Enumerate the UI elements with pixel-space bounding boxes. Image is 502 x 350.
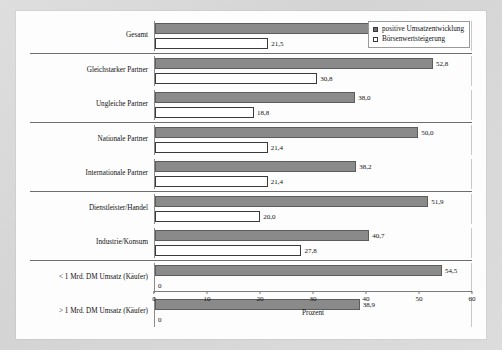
bar-b-rsenwertsteigerung bbox=[155, 142, 268, 153]
chart-row: 52,830,8Gleichstarker Partner bbox=[30, 54, 472, 88]
category-label: Nationale Partner bbox=[30, 136, 154, 144]
plot-area: 44,021,5Gesamt52,830,8Gleichstarker Part… bbox=[30, 19, 472, 291]
tick-label: 0 bbox=[152, 295, 156, 303]
x-tick-60: 60 bbox=[469, 291, 476, 303]
chart-row: 40,727,8Industrie/Konsum bbox=[30, 226, 472, 260]
bar-positive-umsatzentwicklung bbox=[155, 58, 433, 69]
tick-label: 10 bbox=[204, 295, 211, 303]
bar-value-label: 40,7 bbox=[369, 232, 384, 240]
bar-positive-umsatzentwicklung bbox=[155, 127, 418, 138]
chart-row: 50,021,4Nationale Partner bbox=[30, 123, 472, 157]
tick-label: 30 bbox=[310, 295, 317, 303]
x-axis-ticks: 0102030405060 bbox=[154, 291, 472, 309]
bar-b-rsenwertsteigerung bbox=[155, 38, 268, 49]
legend-swatch-hollow bbox=[373, 37, 378, 42]
x-tick-50: 50 bbox=[416, 291, 423, 303]
category-label: < 1 Mrd. DM Umsatz (Käufer) bbox=[30, 274, 154, 282]
bar-group-4: 51,920,0Dienstleister/Handel40,727,8Indu… bbox=[30, 191, 472, 260]
chart-row: 54,50< 1 Mrd. DM Umsatz (Käufer) bbox=[30, 261, 472, 295]
legend-entry-2: Börsenwertsteigerung bbox=[373, 35, 464, 45]
category-label: Internationale Partner bbox=[30, 170, 154, 178]
x-tick-30: 30 bbox=[310, 291, 317, 303]
tick-mark bbox=[313, 291, 314, 294]
bar-track: 20,0 bbox=[154, 209, 472, 224]
chart-row: 38,018,8Ungleiche Partner bbox=[30, 88, 472, 122]
bar-b-rsenwertsteigerung bbox=[155, 107, 254, 118]
bar-track: 52,8 bbox=[154, 56, 472, 71]
bar-track: 51,9 bbox=[154, 194, 472, 209]
bar-value-label: 21,4 bbox=[268, 178, 283, 186]
bar-value-label: 38,2 bbox=[356, 163, 371, 171]
bar-group-3: 50,021,4Nationale Partner38,221,4Interna… bbox=[30, 122, 472, 191]
tick-label: 20 bbox=[257, 295, 264, 303]
bar-value-label: 27,8 bbox=[301, 247, 316, 255]
bar-positive-umsatzentwicklung bbox=[155, 265, 442, 276]
bar-positive-umsatzentwicklung bbox=[155, 161, 356, 172]
bar-value-label: 21,5 bbox=[268, 40, 283, 48]
bar-track: 38,0 bbox=[154, 90, 472, 105]
bar-value-label: 18,8 bbox=[254, 109, 269, 117]
bar-value-label: 52,8 bbox=[433, 60, 448, 68]
figure-root: positive UmsatzentwicklungBörsenwertstei… bbox=[0, 0, 502, 350]
category-label: Dienstleister/Handel bbox=[30, 205, 154, 213]
chart-row: 38,221,4Internationale Partner bbox=[30, 157, 472, 191]
bar-value-label: 20,0 bbox=[260, 213, 275, 221]
tick-mark bbox=[207, 291, 208, 294]
bar-value-label: 50,0 bbox=[418, 129, 433, 137]
x-axis-title: Prozent bbox=[154, 309, 472, 317]
bar-b-rsenwertsteigerung bbox=[155, 211, 260, 222]
category-label: Industrie/Konsum bbox=[30, 239, 154, 247]
bar-track: 38,2 bbox=[154, 159, 472, 174]
chart-legend: positive UmsatzentwicklungBörsenwertstei… bbox=[368, 21, 470, 48]
bar-value-label: 54,5 bbox=[442, 267, 457, 275]
legend-label: positive Umsatzentwicklung bbox=[382, 25, 464, 35]
page-sheet: positive UmsatzentwicklungBörsenwertstei… bbox=[16, 11, 486, 339]
bar-b-rsenwertsteigerung bbox=[155, 73, 317, 84]
bar-value-label: 51,9 bbox=[428, 198, 443, 206]
x-tick-20: 20 bbox=[257, 291, 264, 303]
bar-positive-umsatzentwicklung bbox=[155, 92, 355, 103]
category-label: Ungleiche Partner bbox=[30, 101, 154, 109]
tick-mark bbox=[260, 291, 261, 294]
bar-track: 40,7 bbox=[154, 228, 472, 243]
bar-b-rsenwertsteigerung bbox=[155, 245, 301, 256]
bar-value-label: 30,8 bbox=[317, 75, 332, 83]
category-label: Gesamt bbox=[30, 32, 154, 40]
bar-chart: positive UmsatzentwicklungBörsenwertstei… bbox=[30, 19, 472, 331]
tick-mark bbox=[472, 291, 473, 294]
bar-group-2: 52,830,8Gleichstarker Partner38,018,8Ung… bbox=[30, 53, 472, 122]
bar-track: 21,4 bbox=[154, 174, 472, 189]
bar-track: 18,8 bbox=[154, 105, 472, 120]
tick-label: 60 bbox=[469, 295, 476, 303]
bar-positive-umsatzentwicklung bbox=[155, 230, 369, 241]
bar-positive-umsatzentwicklung bbox=[155, 23, 387, 34]
category-label: Gleichstarker Partner bbox=[30, 67, 154, 75]
legend-swatch-filled bbox=[373, 27, 378, 32]
chart-row: 51,920,0Dienstleister/Handel bbox=[30, 192, 472, 226]
legend-entry-1: positive Umsatzentwicklung bbox=[373, 25, 464, 35]
bar-value-label: 21,4 bbox=[268, 144, 283, 152]
tick-label: 50 bbox=[416, 295, 423, 303]
tick-mark bbox=[154, 291, 155, 294]
bar-track: 27,8 bbox=[154, 243, 472, 258]
bar-track: 30,8 bbox=[154, 71, 472, 86]
tick-label: 40 bbox=[363, 295, 370, 303]
x-tick-40: 40 bbox=[363, 291, 370, 303]
bar-track: 54,5 bbox=[154, 263, 472, 278]
bar-positive-umsatzentwicklung bbox=[155, 196, 428, 207]
bar-value-label: 0 bbox=[155, 282, 162, 290]
tick-mark bbox=[419, 291, 420, 294]
x-tick-0: 0 bbox=[152, 291, 156, 303]
x-tick-10: 10 bbox=[204, 291, 211, 303]
bar-b-rsenwertsteigerung bbox=[155, 176, 268, 187]
tick-mark bbox=[366, 291, 367, 294]
bar-value-label: 38,0 bbox=[355, 94, 370, 102]
bar-track: 21,4 bbox=[154, 140, 472, 155]
bar-track: 50,0 bbox=[154, 125, 472, 140]
x-axis: 0102030405060 Prozent bbox=[30, 291, 472, 331]
legend-label: Börsenwertsteigerung bbox=[382, 35, 445, 45]
